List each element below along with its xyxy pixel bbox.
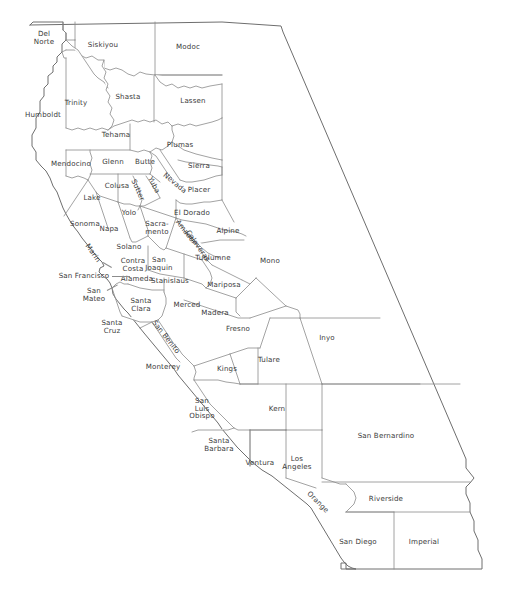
county-borders	[30, 22, 482, 569]
map-svg	[0, 0, 506, 594]
san-francisco-leader	[112, 276, 130, 277]
california-counties-map: Del NorteSiskiyouModocHumboldtTrinitySha…	[0, 0, 506, 594]
